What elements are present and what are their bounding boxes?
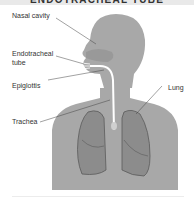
label-endotracheal-line1: Endotracheal [12, 50, 53, 58]
label-trachea: Trachea [12, 118, 37, 126]
label-nasal-cavity: Nasal cavity [12, 12, 50, 20]
tube-cuff [111, 122, 117, 130]
bottom-divider [12, 196, 184, 197]
label-lung: Lung [168, 84, 184, 92]
label-epiglottis: Epiglottis [12, 82, 40, 90]
anatomy-illustration [0, 0, 194, 204]
label-endotracheal-line2: tube [12, 59, 26, 67]
